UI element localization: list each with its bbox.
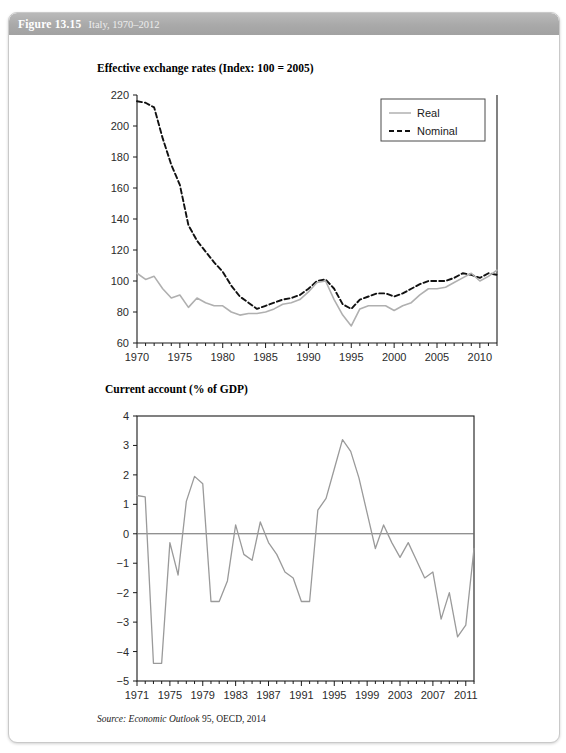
svg-text:1983: 1983 [223, 689, 247, 701]
legend-label-nominal: Nominal [417, 125, 457, 137]
svg-text:1975: 1975 [158, 689, 182, 701]
svg-text:2005: 2005 [425, 351, 449, 363]
panel1-title: Effective exchange rates (Index: 100 = 2… [97, 62, 314, 74]
legend-label-real: Real [417, 107, 440, 119]
svg-text:2011: 2011 [454, 689, 478, 701]
svg-text:−4: −4 [116, 646, 129, 658]
svg-text:4: 4 [123, 410, 129, 422]
svg-text:−1: −1 [116, 557, 129, 569]
exchange-rates-chart: 6080100120140160180200220197019751980198… [9, 75, 559, 375]
svg-text:2003: 2003 [388, 689, 412, 701]
svg-text:2000: 2000 [382, 351, 406, 363]
svg-text:1987: 1987 [256, 689, 280, 701]
svg-text:180: 180 [111, 151, 129, 163]
svg-text:140: 140 [111, 213, 129, 225]
series-current-account [137, 440, 474, 664]
figure-page: Figure 13.15 Italy, 1970–2012 Effective … [0, 0, 566, 753]
svg-text:1985: 1985 [253, 351, 277, 363]
svg-text:2010: 2010 [468, 351, 492, 363]
svg-text:100: 100 [111, 275, 129, 287]
svg-text:1971: 1971 [125, 689, 149, 701]
source-note: Source: Economic Outlook 95, OECD, 2014 [97, 714, 266, 724]
svg-text:80: 80 [117, 306, 129, 318]
svg-text:200: 200 [111, 120, 129, 132]
svg-text:1991: 1991 [289, 689, 313, 701]
svg-text:1970: 1970 [125, 351, 149, 363]
svg-text:2: 2 [123, 469, 129, 481]
figure-card: Figure 13.15 Italy, 1970–2012 Effective … [8, 12, 560, 743]
svg-text:−3: −3 [116, 616, 129, 628]
figure-number: Figure 13.15 [18, 18, 82, 30]
svg-text:3: 3 [123, 439, 129, 451]
svg-text:0: 0 [123, 528, 129, 540]
svg-text:1995: 1995 [322, 689, 346, 701]
series-real [137, 270, 497, 326]
svg-text:1980: 1980 [210, 351, 234, 363]
svg-text:1995: 1995 [339, 351, 363, 363]
svg-text:160: 160 [111, 182, 129, 194]
svg-text:1: 1 [123, 498, 129, 510]
svg-text:1999: 1999 [355, 689, 379, 701]
svg-text:60: 60 [117, 337, 129, 349]
svg-text:1990: 1990 [296, 351, 320, 363]
source-rest: 95, OECD, 2014 [200, 714, 266, 724]
svg-text:1979: 1979 [191, 689, 215, 701]
figure-header: Figure 13.15 Italy, 1970–2012 [9, 13, 559, 35]
svg-text:1975: 1975 [168, 351, 192, 363]
chart1-legend: RealNominal [381, 99, 485, 141]
source-label: Source: Economic Outlook [97, 714, 200, 724]
current-account-chart: −5−4−3−2−1012341971197519791983198719911… [9, 398, 559, 708]
panel2-title: Current account (% of GDP) [105, 383, 248, 395]
svg-text:−5: −5 [116, 675, 129, 687]
svg-text:−2: −2 [116, 587, 129, 599]
svg-text:120: 120 [111, 244, 129, 256]
figure-caption: Italy, 1970–2012 [89, 19, 160, 30]
svg-text:2007: 2007 [421, 689, 445, 701]
svg-text:220: 220 [111, 89, 129, 101]
